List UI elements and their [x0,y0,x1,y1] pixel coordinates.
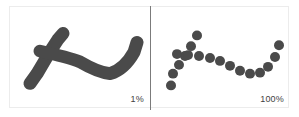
comparison-figure: 1% 100% [0,0,299,117]
sample-dot [168,69,178,79]
solid-stroke-canvas [10,7,150,107]
sampled-dots-canvas [151,7,290,107]
sample-dot [172,49,182,59]
sample-dot [255,68,265,78]
sample-dot [274,40,284,50]
sample-dot [194,51,204,61]
sample-dot [174,60,184,70]
solid-stroke-group [30,33,137,83]
figure-frame: 1% 100% [9,6,289,108]
sample-dot [263,62,273,72]
sampled-dots-group [166,31,284,91]
sample-dot [225,61,235,71]
sample-dot [245,69,255,79]
panel-label-left: 1% [131,94,144,105]
sample-dot [183,50,193,60]
sample-dot [235,66,245,76]
sampled-dots-panel: 100% [151,7,290,107]
sample-dot [166,81,176,91]
panel-divider [150,6,151,110]
sample-dot [270,52,280,62]
sample-dot [192,31,202,41]
solid-stroke-panel: 1% [10,7,150,107]
sample-dot [205,53,215,63]
sample-dot [186,41,196,51]
sample-dot [215,56,225,66]
panel-label-right: 100% [260,94,284,105]
